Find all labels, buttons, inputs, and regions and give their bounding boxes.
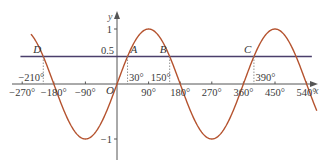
x-tick-label: −180° (41, 87, 67, 98)
y-tick-label: 1 (107, 24, 112, 35)
y-tick-label: 0.5 (101, 45, 114, 56)
point-label-c: C (244, 43, 252, 55)
x-tick-label: 360° (233, 87, 253, 98)
y-tick-label: −1 (101, 134, 112, 145)
intersection-x-label: 390° (255, 72, 275, 83)
x-tick-label: −90° (75, 87, 96, 98)
x-tick-label: 180° (170, 87, 190, 98)
intersection-x-label: −210° (18, 72, 44, 83)
intersection-x-label: 30° (129, 72, 144, 83)
origin-label: O (106, 84, 114, 96)
x-tick-label: 270° (202, 87, 222, 98)
labels: −270°−180°−90°90°180°270°360°450°540°10.… (9, 11, 319, 145)
axes (12, 11, 318, 160)
sine-graph: −270°−180°−90°90°180°270°360°450°540°10.… (0, 0, 322, 167)
dashed-drop-lines (43, 57, 254, 85)
x-tick-label: 90° (141, 87, 156, 98)
point-label-a: A (130, 43, 138, 55)
x-tick-label: 450° (265, 87, 285, 98)
x-tick-label: −270° (9, 87, 35, 98)
point-label-b: B (160, 43, 167, 55)
y-axis-label: y (107, 11, 113, 22)
x-axis-label: x (313, 85, 319, 96)
point-label-d: D (32, 43, 41, 55)
intersection-x-label: 150° (151, 72, 171, 83)
y-axis-arrow-icon (114, 11, 120, 19)
